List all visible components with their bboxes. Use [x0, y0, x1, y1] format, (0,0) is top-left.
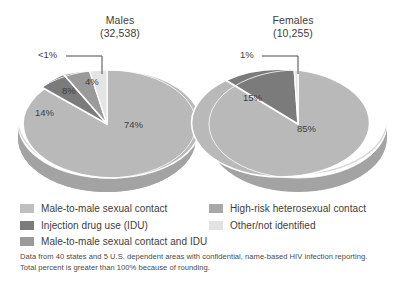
females-other-leader-line	[262, 52, 306, 76]
chart-canvas: Males (32,538)	[0, 0, 402, 287]
legend-swatch-other	[209, 221, 223, 230]
legend-label-idu: Injection drug use (IDU)	[41, 220, 148, 231]
legend-label-heterosexual: High-risk heterosexual contact	[230, 203, 366, 214]
males-label-8: 8%	[62, 85, 76, 96]
males-label-14: 14%	[35, 107, 54, 118]
females-label-85: 85%	[297, 123, 316, 134]
males-title-text: Males	[106, 14, 135, 26]
females-title-count: (10,255)	[233, 27, 353, 40]
males-chart-title: Males (32,538)	[60, 14, 180, 39]
legend-swatch-idu	[20, 221, 34, 230]
males-label-lt1: <1%	[38, 49, 57, 60]
legend-swatch-msm-idu	[20, 237, 34, 246]
legend-swatch-msm	[20, 204, 34, 213]
males-other-leader-line	[66, 52, 114, 76]
females-title-text: Females	[273, 14, 314, 26]
chart-footnotes: Data from 40 states and 5 U.S. dependent…	[20, 252, 395, 273]
legend-item-other: Other/not identified	[209, 218, 366, 233]
legend-label-other: Other/not identified	[230, 220, 316, 231]
females-label-1: 1%	[240, 49, 254, 60]
footnote-line-1: Data from 40 states and 5 U.S. dependent…	[20, 252, 395, 263]
females-label-15: 15%	[243, 92, 262, 103]
legend-item-msm-idu: Male-to-male sexual contact and IDU	[20, 234, 207, 249]
legend-item-idu: Injection drug use (IDU)	[20, 218, 207, 233]
males-label-4: 4%	[85, 76, 99, 87]
males-pie-chart	[18, 62, 203, 192]
legend-item-heterosexual: High-risk heterosexual contact	[209, 201, 366, 216]
males-title-count: (32,538)	[60, 27, 180, 40]
legend-item-msm: Male-to-male sexual contact	[20, 201, 207, 216]
males-label-74: 74%	[124, 119, 143, 130]
legend-label-msm-idu: Male-to-male sexual contact and IDU	[41, 236, 207, 247]
females-chart-title: Females (10,255)	[233, 14, 353, 39]
footnote-line-2: Total percent is greater than 100% becau…	[20, 263, 395, 274]
legend-column-right: High-risk heterosexual contact Other/not…	[209, 201, 366, 234]
legend-column-left: Male-to-male sexual contact Injection dr…	[20, 201, 207, 251]
legend-label-msm: Male-to-male sexual contact	[41, 203, 167, 214]
legend-swatch-heterosexual	[209, 204, 223, 213]
males-pie-svg	[18, 62, 203, 192]
